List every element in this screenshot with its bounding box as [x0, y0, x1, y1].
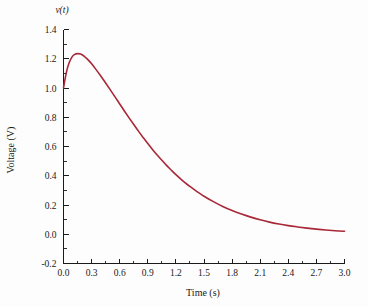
y-tick-label: -0.2 — [41, 259, 56, 269]
chart-figure: 0.00.30.60.91.21.51.82.12.42.73.0 -0.20.… — [0, 0, 368, 307]
x-tick-label: 2.1 — [254, 268, 266, 278]
y-axis-title: Voltage (V) — [5, 127, 17, 174]
voltage-time-plot: 0.00.30.60.91.21.51.82.12.42.73.0 -0.20.… — [0, 0, 368, 307]
x-tick-label: 0.3 — [86, 268, 98, 278]
curve-symbol-label: v(t) — [55, 5, 68, 16]
x-tick-label: 2.4 — [282, 268, 294, 278]
x-tick-label: 0.6 — [114, 268, 126, 278]
x-tick-label: 2.7 — [310, 268, 322, 278]
y-tick-label: 1.0 — [45, 84, 57, 94]
y-tick-label: 0.0 — [45, 230, 57, 240]
x-tick-label: 3.0 — [339, 268, 351, 278]
x-axis-title: Time (s) — [186, 287, 220, 299]
y-axis-tick-labels: -0.20.00.20.40.60.81.01.21.4 — [41, 25, 56, 269]
y-tick-label: 0.2 — [45, 201, 57, 211]
y-tick-label: 1.2 — [45, 54, 57, 64]
y-tick-label: 0.6 — [45, 142, 57, 152]
x-tick-label: 1.5 — [198, 268, 210, 278]
y-tick-label: 0.4 — [45, 171, 57, 181]
x-tick-label: 0.9 — [142, 268, 154, 278]
y-tick-label: 0.8 — [45, 113, 57, 123]
x-tick-label: 0.0 — [58, 268, 70, 278]
y-tick-label: 1.4 — [45, 25, 57, 35]
x-tick-label: 1.8 — [226, 268, 238, 278]
x-tick-label: 1.2 — [170, 268, 182, 278]
